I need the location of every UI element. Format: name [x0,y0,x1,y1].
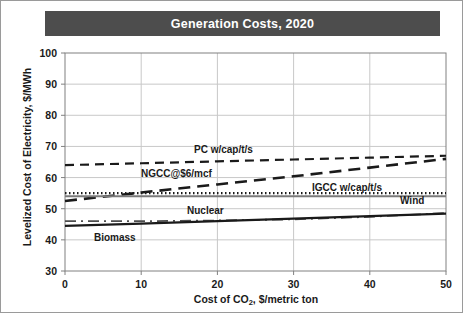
y-tick-label: 100 [39,47,57,59]
y-tick-label: 60 [45,172,57,184]
series-label-pc-w-cap-t-s: PC w/cap/t/s [194,144,253,155]
series-label-biomass: Biomass [94,232,136,243]
x-tick-label: 20 [212,278,224,290]
y-tick-label: 70 [45,140,57,152]
x-tick-label: 0 [62,278,68,290]
chart-figure: Generation Costs, 2020 Levelized Cost of… [0,0,463,313]
x-tick-labels: 01020304050 [62,278,452,290]
y-tick-label: 30 [45,265,57,277]
y-tick-label: 50 [45,203,57,215]
y-tick-label: 80 [45,109,57,121]
y-tick-labels: 30405060708090100 [39,47,57,277]
series-label-wind: Wind [400,195,424,206]
x-tick-label: 50 [440,278,452,290]
chart-svg: 30405060708090100 01020304050 PC w/cap/t… [1,1,463,313]
series-label-igcc-w-cap-t-s: IGCC w/cap/t/s [312,182,382,193]
x-tick-label: 10 [135,278,147,290]
x-tick-label: 30 [288,278,300,290]
series-label-nuclear: Nuclear [187,205,224,216]
y-tick-label: 40 [45,234,57,246]
x-tick-label: 40 [364,278,376,290]
series-label-ngcc-6-mcf: NGCC@$6/mcf [141,168,213,179]
y-tick-label: 90 [45,78,57,90]
plot-area: 30405060708090100 01020304050 PC w/cap/t… [1,1,463,313]
